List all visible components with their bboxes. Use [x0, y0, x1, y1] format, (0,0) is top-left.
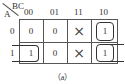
cell-a1-bc11-dontcare: ×: [67, 42, 91, 64]
col-header-10: 10: [99, 7, 108, 17]
col-header-11: 11: [74, 7, 83, 17]
col-variable-label: BC: [12, 1, 24, 11]
cell-a0-bc01: 0: [43, 20, 67, 42]
row-header-0: 0: [10, 26, 15, 36]
cell-a1-bc01: 0: [43, 42, 67, 64]
row-variable-label: A: [4, 9, 11, 19]
cell-a0-bc00: 0: [19, 20, 43, 42]
wrap-line: [12, 61, 20, 62]
cell-a0-bc11-dontcare: ×: [67, 20, 91, 42]
wrap-line: [12, 45, 20, 46]
wrap-line: [110, 44, 124, 45]
wrap-line: [110, 61, 124, 62]
col-header-00: 00: [24, 7, 33, 17]
col-header-01: 01: [50, 7, 59, 17]
group-loop-a0-bc10: [96, 22, 114, 41]
group-loop-a1-bc10: [96, 44, 114, 62]
figure-caption: （a）: [0, 71, 125, 82]
group-loop-a1-bc00: [13, 45, 39, 62]
